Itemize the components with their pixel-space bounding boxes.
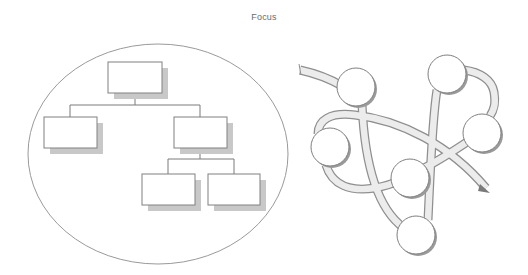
node-n2 bbox=[428, 55, 468, 95]
tree-box-child-left bbox=[44, 117, 97, 148]
tree-box-child-right bbox=[174, 117, 227, 148]
tree-box-grandchild-left bbox=[142, 174, 195, 205]
node-n3 bbox=[463, 114, 503, 154]
node-n1 bbox=[337, 68, 377, 108]
tree-box-root bbox=[108, 62, 162, 93]
diagram-canvas bbox=[0, 0, 528, 275]
hierarchy-diagram bbox=[28, 44, 288, 264]
node-n4 bbox=[311, 128, 351, 168]
network-diagram bbox=[299, 55, 503, 256]
tree-box-grandchild-right bbox=[208, 174, 260, 205]
node-n6 bbox=[397, 216, 437, 256]
network-nodes bbox=[311, 55, 503, 256]
